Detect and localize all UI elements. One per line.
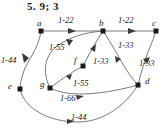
node-label-a: a	[37, 18, 42, 28]
node-label-b: b	[99, 18, 104, 28]
node-f[interactable]	[81, 64, 86, 69]
edge-weight-g-b: 1-55	[49, 42, 65, 52]
node-a[interactable]	[39, 29, 44, 34]
node-d[interactable]	[136, 83, 141, 88]
node-label-f: f	[74, 55, 77, 65]
arrowhead-g-b	[66, 39, 73, 46]
edge-weight-a-b: 1-22	[58, 15, 74, 25]
node-b[interactable]	[101, 29, 106, 34]
arrowhead-a-e	[22, 53, 29, 63]
edge-weight-a-e: 1-44	[1, 55, 17, 65]
arrowhead-b-d	[115, 56, 121, 63]
edge-weight-f-b: 1-33	[93, 56, 109, 66]
edge-weight-e-d: 1-44	[71, 112, 87, 122]
edge-weight-b-c: 1-22	[118, 15, 134, 25]
graph-edges	[20, 31, 156, 122]
arrowhead-b-c	[128, 28, 136, 34]
node-c[interactable]	[154, 29, 159, 34]
edge-weight-d-c: 1-33	[139, 58, 155, 68]
node-label-c: c	[152, 18, 156, 28]
node-g[interactable]	[48, 86, 53, 91]
arrowhead-a-b	[68, 28, 76, 34]
figure-container: 5. 9; 3	[0, 0, 164, 131]
arrowhead-g-d	[76, 95, 84, 100]
edge-a-e	[20, 31, 41, 89]
node-label-g: g	[40, 79, 45, 89]
node-label-e: e	[8, 81, 12, 91]
edge-weight-b-d: 1-33	[118, 40, 134, 50]
edge-weight-g-d: 1-66	[60, 93, 76, 103]
edge-weight-g-f: 1-55	[73, 78, 89, 88]
node-e[interactable]	[18, 87, 23, 92]
node-label-d: d	[145, 76, 150, 86]
